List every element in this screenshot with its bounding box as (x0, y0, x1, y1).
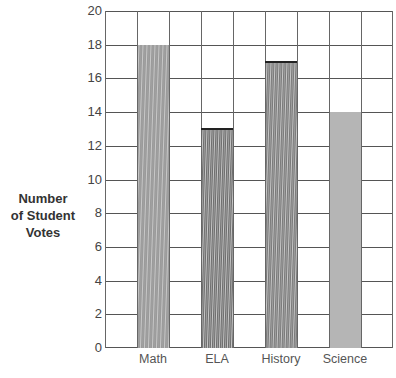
y-tick-label: 6 (66, 239, 102, 254)
bar-history (266, 62, 297, 348)
y-tick-label: 8 (66, 205, 102, 220)
grid-line-vertical (233, 11, 234, 348)
y-tick-label: 4 (66, 273, 102, 288)
grid-line-vertical (297, 11, 298, 348)
bar-ela (202, 129, 233, 348)
grid-line-vertical (392, 11, 393, 348)
y-tick-label: 10 (66, 172, 102, 187)
bar-math (138, 45, 169, 348)
y-tick-label: 2 (66, 306, 102, 321)
x-category-label: Math (121, 352, 185, 366)
x-category-label: ELA (185, 352, 249, 366)
plot-area (105, 11, 393, 348)
grid-line-vertical (105, 11, 106, 348)
bar-science (330, 112, 361, 348)
y-tick-label: 20 (66, 3, 102, 18)
grid-line-horizontal (105, 11, 393, 12)
x-category-label: Science (313, 352, 377, 366)
grid-line-vertical (169, 11, 170, 348)
x-category-label: History (249, 352, 313, 366)
bar-top-line (201, 128, 233, 130)
y-tick-label: 18 (66, 37, 102, 52)
y-tick-label: 12 (66, 138, 102, 153)
bar-top-line (265, 61, 297, 63)
grid-line-vertical (361, 11, 362, 348)
y-tick-label: 14 (66, 104, 102, 119)
y-tick-label: 0 (66, 340, 102, 355)
y-tick-label: 16 (66, 70, 102, 85)
